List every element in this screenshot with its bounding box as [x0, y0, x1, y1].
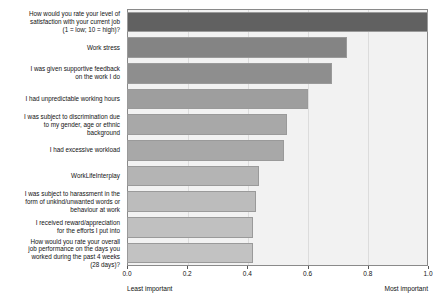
- x-tick-label: 0.6: [303, 270, 312, 277]
- x-tick-mark: [187, 266, 188, 269]
- category-label: Work stress: [0, 44, 120, 52]
- bar[interactable]: [127, 12, 428, 33]
- bar[interactable]: [127, 63, 332, 84]
- x-tick-label: 0.8: [363, 270, 372, 277]
- x-tick-label: 1.0: [423, 270, 432, 277]
- bar[interactable]: [127, 114, 287, 135]
- category-label: I received reward/appreciation for the e…: [0, 219, 120, 235]
- x-tick-label: 0.0: [122, 270, 131, 277]
- axis-annotation-least-important: Least important: [127, 285, 172, 292]
- bar[interactable]: [127, 166, 259, 187]
- bar[interactable]: [127, 243, 253, 264]
- category-label: I had excessive workload: [0, 146, 120, 154]
- bar-row[interactable]: [127, 217, 428, 238]
- bar[interactable]: [127, 191, 256, 212]
- category-label: I had unpredictable working hours: [0, 95, 120, 103]
- x-tick-mark: [247, 266, 248, 269]
- bar-row[interactable]: [127, 89, 428, 110]
- category-label: How would you rate your overall job perf…: [0, 238, 120, 269]
- bar-series: [127, 9, 428, 266]
- bar[interactable]: [127, 37, 347, 58]
- bar-row[interactable]: [127, 166, 428, 187]
- bar-row[interactable]: [127, 114, 428, 135]
- horizontal-bar-chart: How would you rate your level of satisfa…: [0, 0, 447, 306]
- x-tick-mark: [127, 266, 128, 269]
- x-tick-label: 0.2: [183, 270, 192, 277]
- category-label: I was given supportive feedback on the w…: [0, 65, 120, 81]
- bar-row[interactable]: [127, 63, 428, 84]
- bar-row[interactable]: [127, 243, 428, 264]
- x-tick-mark: [368, 266, 369, 269]
- bar[interactable]: [127, 217, 253, 238]
- x-tick-label: 0.4: [243, 270, 252, 277]
- bar[interactable]: [127, 89, 308, 110]
- x-axis-ticks: 0.00.20.40.60.81.0: [127, 266, 428, 280]
- bar[interactable]: [127, 140, 284, 161]
- bar-row[interactable]: [127, 37, 428, 58]
- bar-row[interactable]: [127, 191, 428, 212]
- x-tick-mark: [428, 266, 429, 269]
- axis-annotation-most-important: Most important: [384, 285, 428, 292]
- x-tick-mark: [308, 266, 309, 269]
- category-label: WorkLifeInterplay: [0, 172, 120, 180]
- category-axis-labels: How would you rate your level of satisfa…: [0, 9, 124, 266]
- category-label: I was subject to harassment in the form …: [0, 190, 120, 213]
- category-label: How would you rate your level of satisfa…: [0, 10, 120, 33]
- category-label: I was subject to discrimination due to m…: [0, 113, 120, 136]
- bar-row[interactable]: [127, 140, 428, 161]
- bar-row[interactable]: [127, 12, 428, 33]
